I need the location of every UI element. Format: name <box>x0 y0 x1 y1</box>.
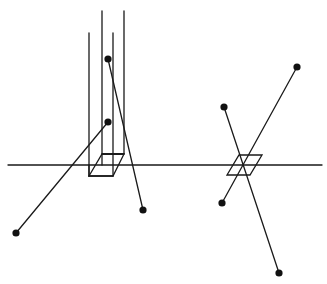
left-figure <box>12 11 146 237</box>
endpoint-dot <box>293 63 300 70</box>
endpoint-dot <box>275 269 282 276</box>
endpoint-dot <box>12 229 19 236</box>
endpoint-dot <box>139 206 146 213</box>
right-figure <box>218 63 300 276</box>
endpoint-dot <box>220 103 227 110</box>
diagram-canvas <box>0 0 327 284</box>
endpoint-dot <box>104 55 111 62</box>
endpoint-dot <box>218 199 225 206</box>
endpoint-dot <box>104 118 111 125</box>
segment-line <box>16 122 108 233</box>
segment-line <box>224 107 279 273</box>
